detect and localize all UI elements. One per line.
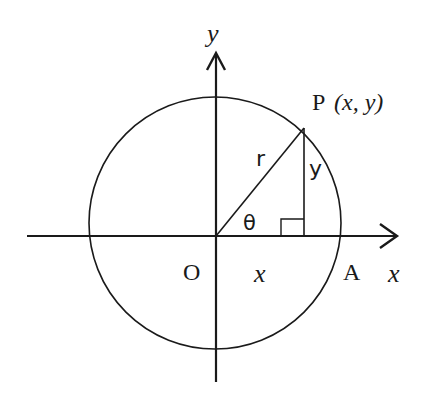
angle-theta-label: θ: [243, 211, 256, 235]
opposite-side-label: y: [309, 156, 322, 181]
radius-line: [216, 128, 304, 236]
right-angle-marker: [281, 219, 304, 236]
adjacent-side-label: x: [253, 259, 266, 288]
origin-label: O: [183, 259, 200, 285]
radius-label: r: [256, 146, 266, 171]
unit-circle-diagram: y x O P (x, y) r y θ x A: [0, 0, 424, 398]
point-p-label: P: [312, 89, 325, 115]
y-axis-label: y: [204, 19, 219, 48]
x-axis-label: x: [387, 259, 400, 288]
point-p-coords-label: (x, y): [334, 89, 383, 115]
point-a-label: A: [343, 259, 361, 285]
